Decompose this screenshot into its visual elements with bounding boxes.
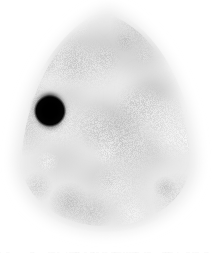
- scan-noise-canvas: [0, 0, 212, 257]
- scan-viewport: Grayscale pear-shaped body cross-section…: [0, 0, 212, 257]
